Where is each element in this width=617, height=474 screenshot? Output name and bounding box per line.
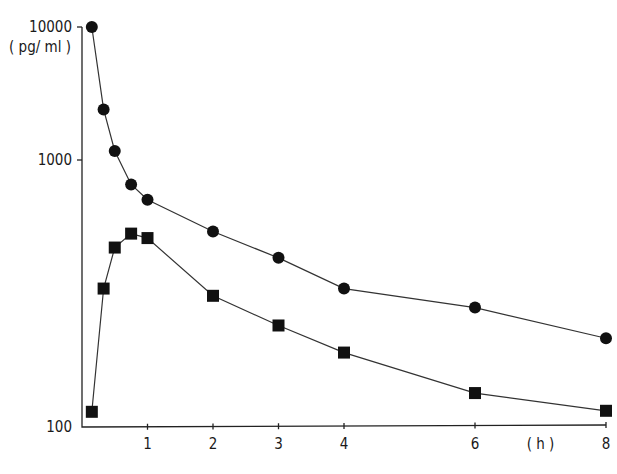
circle-marker xyxy=(600,332,612,344)
circle-marker xyxy=(142,194,154,206)
square-marker xyxy=(142,232,154,244)
square-marker xyxy=(207,290,219,302)
squares-series-line xyxy=(92,234,606,412)
circle-marker xyxy=(207,225,219,237)
circle-marker xyxy=(98,103,110,115)
y-tick-label: 100 xyxy=(46,418,72,436)
pk-concentration-chart: 100100010000( pg/ ml )123468( h ) xyxy=(0,0,617,474)
square-marker xyxy=(469,387,481,399)
x-tick-label: 3 xyxy=(274,435,283,453)
square-marker xyxy=(273,319,285,331)
square-marker xyxy=(125,228,137,240)
circle-marker xyxy=(469,302,481,314)
x-tick-label: 6 xyxy=(471,435,480,453)
y-tick-label: 1000 xyxy=(38,151,72,169)
series-markers xyxy=(86,21,612,418)
circle-marker xyxy=(109,145,121,157)
x-tick-label: 8 xyxy=(602,435,611,453)
axes xyxy=(77,27,606,430)
x-tick-label: 4 xyxy=(340,435,349,453)
circle-marker xyxy=(273,252,285,264)
circle-marker xyxy=(338,283,350,295)
x-tick-label: 2 xyxy=(209,435,218,453)
y-tick-label: 10000 xyxy=(29,18,72,36)
y-axis-label: ( pg/ ml ) xyxy=(9,38,71,56)
x-axis-label: ( h ) xyxy=(527,435,555,453)
square-marker xyxy=(600,405,612,417)
axis-lines xyxy=(82,27,606,427)
square-marker xyxy=(98,283,110,295)
axis-labels: 100100010000( pg/ ml )123468( h ) xyxy=(9,18,610,453)
square-marker xyxy=(338,347,350,359)
circle-marker xyxy=(86,21,98,33)
x-tick-label: 1 xyxy=(143,435,152,453)
square-marker xyxy=(86,406,98,418)
square-marker xyxy=(109,242,121,254)
circle-marker xyxy=(125,178,137,190)
